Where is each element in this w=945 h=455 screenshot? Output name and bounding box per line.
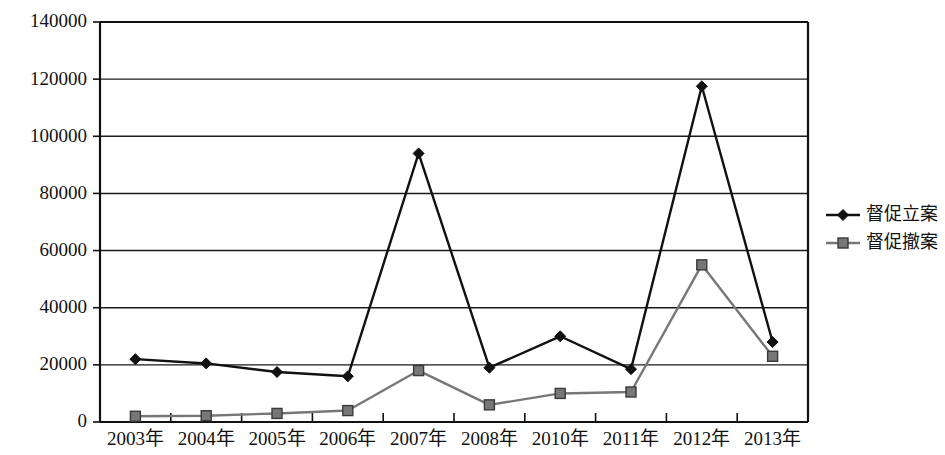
y-axis-label: 40000 xyxy=(40,296,88,317)
x-axis-label: 2013年 xyxy=(744,428,801,449)
data-point-marker xyxy=(201,411,211,421)
x-axis-label: 2004年 xyxy=(178,428,235,449)
y-axis-label: 0 xyxy=(78,410,88,431)
y-axis-label: 20000 xyxy=(40,353,88,374)
legend-marker-2 xyxy=(838,238,848,248)
data-point-marker xyxy=(555,388,565,398)
y-axis-label: 120000 xyxy=(30,68,87,89)
y-axis-label: 100000 xyxy=(30,125,87,146)
data-point-marker xyxy=(343,406,353,416)
x-axis-label: 2012年 xyxy=(673,428,730,449)
x-axis-label: 2003年 xyxy=(107,428,164,449)
data-point-marker xyxy=(697,260,707,270)
data-point-marker xyxy=(768,351,778,361)
data-point-marker xyxy=(130,411,140,421)
data-point-marker xyxy=(626,387,636,397)
x-axis-label: 2006年 xyxy=(319,428,376,449)
line-chart: 020000400006000080000100000120000140000 … xyxy=(0,0,945,455)
data-point-marker xyxy=(484,400,494,410)
x-axis-label: 2010年 xyxy=(532,428,589,449)
data-point-marker xyxy=(272,408,282,418)
x-axis-label: 2008年 xyxy=(461,428,518,449)
x-axis-label: 2011年 xyxy=(603,428,659,449)
x-axis-label: 2007年 xyxy=(390,428,447,449)
x-axis-label: 2005年 xyxy=(249,428,306,449)
y-axis-label: 80000 xyxy=(40,182,88,203)
legend-label-1: 督促立案 xyxy=(866,204,938,224)
chart-container: 020000400006000080000100000120000140000 … xyxy=(0,0,945,455)
legend-label-2: 督促撤案 xyxy=(866,232,938,252)
y-axis-label: 140000 xyxy=(30,10,87,31)
chart-background xyxy=(0,0,945,455)
y-axis-label: 60000 xyxy=(40,239,88,260)
data-point-marker xyxy=(414,366,424,376)
